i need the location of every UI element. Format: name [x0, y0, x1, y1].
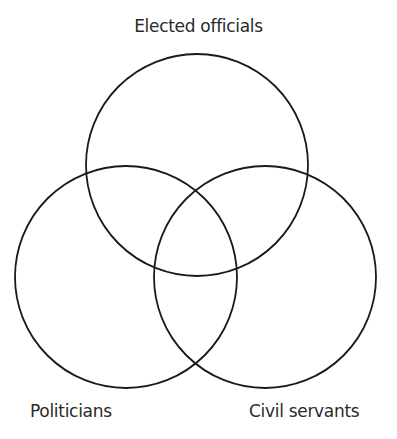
- label-politicians: Politicians: [30, 401, 112, 421]
- label-elected-officials: Elected officials: [0, 16, 397, 36]
- circle-elected-officials: [86, 54, 308, 276]
- venn-diagram: [0, 0, 397, 439]
- circle-politicians: [15, 166, 237, 388]
- circle-civil-servants: [154, 166, 376, 388]
- label-civil-servants: Civil servants: [249, 401, 359, 421]
